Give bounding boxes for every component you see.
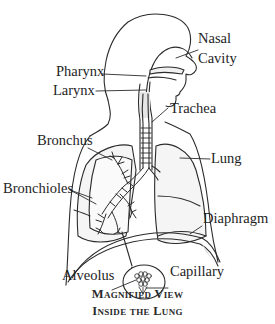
label-bronchus: Bronchus xyxy=(37,133,93,148)
label-bronchioles: Bronchioles xyxy=(3,181,73,196)
nasal-cavity-drawing xyxy=(146,47,192,102)
label-diaphragm: Diaphragm xyxy=(203,211,268,226)
label-trachea: Trachea xyxy=(170,101,216,116)
label-larynx: Larynx xyxy=(53,83,95,98)
caption-line2: Inside the Lung xyxy=(0,304,275,319)
label-pharynx: Pharynx xyxy=(56,64,104,79)
label-alveolus: Alveolus xyxy=(62,268,114,283)
label-capillary: Capillary xyxy=(170,264,224,279)
label-nasal-cavity-line1: Nasal xyxy=(198,31,231,46)
caption-line1: Magnified View xyxy=(0,287,275,302)
label-nasal-cavity-line2: Cavity xyxy=(198,51,237,66)
label-lung: Lung xyxy=(211,151,242,166)
airway-tube xyxy=(139,82,153,170)
